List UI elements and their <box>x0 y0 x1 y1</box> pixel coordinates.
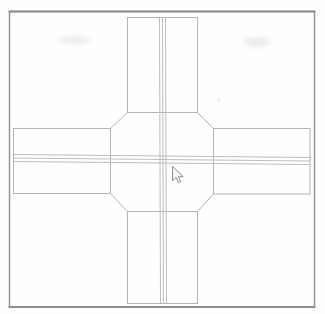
arrow-pointer-icon <box>173 167 184 183</box>
drawing-canvas[interactable] <box>0 0 325 314</box>
junction-chamfer-nw <box>111 113 128 129</box>
junction-chamfer-se <box>198 194 214 212</box>
vertical-center-lines <box>160 18 167 304</box>
center-lines <box>14 18 311 304</box>
intersection-drawing <box>0 0 325 314</box>
south-road <box>128 212 198 304</box>
west-road <box>14 129 111 194</box>
horizontal-center-lines <box>14 155 311 165</box>
junction-chamfer-sw <box>111 194 128 212</box>
junction-chamfer-ne <box>198 113 214 129</box>
